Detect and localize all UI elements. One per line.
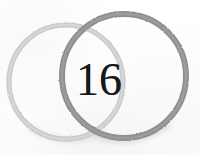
left-ring xyxy=(9,25,123,139)
venn-rings-artwork xyxy=(0,0,200,155)
scanned-page: 16 xyxy=(0,0,200,155)
